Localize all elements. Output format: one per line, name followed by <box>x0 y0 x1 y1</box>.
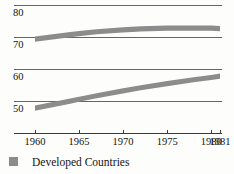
xtick-label-1970: 1970 <box>113 136 134 147</box>
data-band-lower <box>35 74 220 111</box>
ytick-label-80: 80 <box>13 7 24 18</box>
lower-panel-series-developed-countries <box>35 74 220 111</box>
chart-legend: Developed Countries <box>9 156 130 169</box>
ytick-label-70: 70 <box>13 39 24 50</box>
xtick-label-1975: 1975 <box>157 136 178 147</box>
x-axis: 196019651970197519801981 <box>14 130 231 148</box>
legend-label-developed-countries: Developed Countries <box>32 156 130 169</box>
legend-swatch-developed-countries <box>9 157 18 166</box>
xtick-label-1965: 1965 <box>69 136 90 147</box>
x-axis-tickmarks <box>35 130 220 134</box>
ytick-label-50: 50 <box>13 103 24 114</box>
ytick-label-60: 60 <box>13 71 24 82</box>
chart-plot-area: 80 70 60 50 196019651970197519801981 Dev… <box>0 0 234 174</box>
lower-panel-gridlines <box>14 70 222 102</box>
upper-panel-series-developed-countries <box>35 26 220 42</box>
chart-container: 80 70 60 50 196019651970197519801981 Dev… <box>0 0 234 174</box>
xtick-label-1960: 1960 <box>25 136 46 147</box>
data-band-upper <box>35 26 220 42</box>
xtick-label-1981: 1981 <box>210 136 231 147</box>
x-axis-tick-labels: 196019651970197519801981 <box>25 136 231 147</box>
